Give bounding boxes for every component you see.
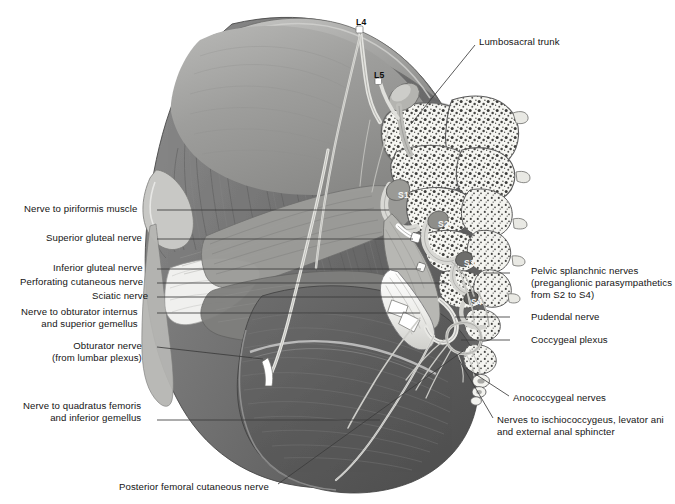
label-nerves-to-ischiococcygeus-line-2: and external anal sphincter (497, 426, 664, 438)
label-nerves-to-ischiococcygeus: Nerves to ischiococcygeus, levator anian… (497, 414, 664, 438)
label-nerve-to-obturator-internus-line-1: Nerve to obturator internus (21, 306, 138, 318)
label-nerve-to-piriformis-muscle: Nerve to piriformis muscle (24, 203, 137, 215)
label-pelvic-splanchnic-nerves: Pelvic splanchnic nerves(preganglionic p… (531, 265, 672, 302)
label-nerves-to-ischiococcygeus-line-1: Nerves to ischiococcygeus, levator ani (497, 414, 664, 426)
vertebral-level-S1: S1 (398, 190, 409, 200)
label-pelvic-splanchnic-nerves-line-1: Pelvic splanchnic nerves (531, 265, 672, 277)
vertebral-level-S3: S3 (464, 258, 475, 268)
label-superior-gluteal-nerve: Superior gluteal nerve (46, 232, 142, 244)
label-nerve-to-obturator-internus-line-2: and superior gemellus (21, 318, 138, 330)
L4-root-stump (356, 26, 363, 33)
label-pudendal-nerve: Pudendal nerve (531, 311, 600, 323)
label-nerve-to-quadratus-femoris-line-1: Nerve to quadratus femoris (23, 400, 141, 412)
label-nerve-to-quadratus-femoris: Nerve to quadratus femorisand inferior g… (23, 400, 141, 424)
vertebral-level-L4: L4 (356, 17, 366, 27)
label-perforating-cutaneous-nerve: Perforating cutaneous nerve (20, 276, 143, 288)
vertebral-level-S2: S2 (438, 219, 449, 229)
vertebral-level-L5: L5 (374, 70, 384, 80)
vertebral-level-S4: S4 (471, 297, 482, 307)
label-obturator-nerve: Obturator nerve(from lumbar plexus) (52, 340, 142, 364)
label-inferior-gluteal-nerve: Inferior gluteal nerve (53, 262, 143, 274)
label-coccygeal-plexus: Coccygeal plexus (531, 334, 608, 346)
label-nerve-to-quadratus-femoris-line-2: and inferior gemellus (23, 412, 141, 424)
label-sciatic-nerve: Sciatic nerve (92, 290, 148, 302)
label-nerve-to-obturator-internus: Nerve to obturator internusand superior … (21, 306, 138, 330)
label-pelvic-splanchnic-nerves-line-3: from S2 to S4) (531, 289, 672, 301)
label-obturator-nerve-line-1: Obturator nerve (52, 340, 142, 352)
label-anococcygeal-nerves: Anococcygeal nerves (513, 392, 606, 404)
label-posterior-femoral-cutaneous-nerve: Posterior femoral cutaneous nerve (119, 481, 269, 493)
label-lumbosacral-trunk: Lumbosacral trunk (479, 36, 560, 48)
label-pelvic-splanchnic-nerves-line-2: (preganglionic parasympathetics (531, 277, 672, 289)
label-obturator-nerve-line-2: (from lumbar plexus) (52, 352, 142, 364)
